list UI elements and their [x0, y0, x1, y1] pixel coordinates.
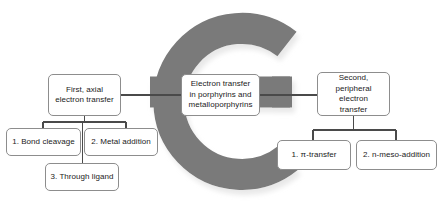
node-center-topic[interactable]: Electron transferin porphyrins andmetall…: [181, 74, 260, 116]
node-second-line1: Second,: [321, 73, 386, 84]
node-n-meso-addition[interactable]: 2. n-meso-addition: [356, 140, 437, 170]
node-center-line2: in porphyrins and: [185, 90, 256, 101]
node-first-line2: electron transfer: [52, 95, 117, 106]
node-second-line3: transfer: [321, 105, 386, 116]
node-center-label: Electron transferin porphyrins andmetall…: [185, 79, 256, 111]
node-pi-transfer-label: 1. π-transfer: [281, 150, 347, 161]
node-through-ligand-label: 3. Through ligand: [49, 172, 115, 183]
node-first-line1: First, axial: [52, 85, 117, 96]
node-second-label: Second,peripheral electrontransfer: [321, 73, 386, 115]
node-first-axial-electron-transfer[interactable]: First, axialelectron transfer: [48, 74, 121, 116]
node-second-peripheral-electron-transfer[interactable]: Second,peripheral electrontransfer: [317, 72, 390, 116]
node-second-line2: peripheral electron: [321, 84, 386, 105]
node-center-line1: Electron transfer: [185, 79, 256, 90]
diagram-canvas: Electron transferin porphyrins andmetall…: [0, 0, 440, 202]
node-bond-cleavage-label: 1. Bond cleavage: [10, 137, 77, 148]
node-pi-transfer[interactable]: 1. π-transfer: [277, 140, 351, 170]
node-metal-addition-label: 2. Metal addition: [88, 137, 154, 148]
node-center-line3: metalloporphyrins: [185, 100, 256, 111]
node-first-label: First, axialelectron transfer: [52, 85, 117, 106]
node-through-ligand[interactable]: 3. Through ligand: [45, 163, 119, 191]
node-n-meso-addition-label: 2. n-meso-addition: [360, 150, 433, 161]
node-metal-addition[interactable]: 2. Metal addition: [84, 128, 158, 156]
node-bond-cleavage[interactable]: 1. Bond cleavage: [6, 128, 81, 156]
